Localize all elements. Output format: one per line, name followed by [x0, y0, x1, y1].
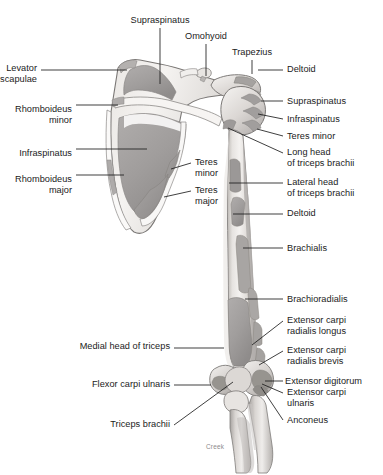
- label-infraspinatus-left: Infraspinatus: [19, 148, 72, 159]
- label-trapezius: Trapezius: [172, 47, 332, 58]
- label-flexor-carpi-ulnaris: Flexor carpi ulnaris: [92, 379, 170, 390]
- label-deltoid-lower: Deltoid: [287, 208, 316, 219]
- label-medial-head-of-triceps: Medial head of triceps: [80, 341, 170, 352]
- label-supraspinatus-right: Supraspinatus: [287, 96, 346, 107]
- label-infraspinatus-right: Infraspinatus: [287, 114, 340, 125]
- label-anconeus: Anconeus: [287, 415, 328, 426]
- artist-signature: Creek: [206, 443, 224, 450]
- label-extensor-digitorum: Extensor digitorum: [285, 376, 362, 387]
- lateral-head-triceps-attachment: [230, 159, 241, 192]
- trochlea: [225, 367, 251, 393]
- label-teres-major-inner: Teres major: [195, 185, 218, 206]
- anatomy-figure: SupraspinatusOmohyoidTrapeziusLevator sc…: [0, 0, 383, 475]
- label-triceps-brachii: Triceps brachii: [110, 419, 170, 430]
- label-extensor-carpi-radialis-brevis: Extensor carpi radialis brevis: [287, 345, 346, 366]
- label-lateral-head-of-triceps-brachii: Lateral head of triceps brachii: [287, 177, 354, 198]
- label-teres-minor-right: Teres minor: [287, 131, 335, 142]
- label-levator-scapulae: Levator scapulae: [0, 63, 37, 84]
- label-omohyoid: Omohyoid: [126, 31, 286, 42]
- humerus-group: [221, 86, 266, 368]
- label-rhomboideus-major: Rhomboideus major: [15, 174, 72, 195]
- leader-teres-minor-right: [257, 129, 283, 136]
- label-supraspinatus-top: Supraspinatus: [80, 15, 240, 26]
- label-extensor-carpi-ulnaris: Extensor carpi ulnaris: [287, 387, 346, 408]
- label-deltoid-upper: Deltoid: [287, 64, 316, 75]
- label-brachioradialis: Brachioradialis: [287, 294, 348, 305]
- label-teres-minor-inner: Teres minor: [195, 157, 218, 178]
- deltoid-tuberosity-attachment: [231, 197, 245, 226]
- label-brachialis: Brachialis: [287, 243, 327, 254]
- elbow-group: [210, 360, 274, 473]
- label-extensor-carpi-radialis-longus: Extensor carpi radialis longus: [287, 315, 346, 336]
- label-rhomboideus-minor: Rhomboideus minor: [15, 104, 72, 125]
- ecrl-attachment: [253, 322, 262, 346]
- medial-head-triceps-attachment: [228, 298, 252, 366]
- label-long-head-of-triceps-brachii: Long head of triceps brachii: [287, 147, 354, 168]
